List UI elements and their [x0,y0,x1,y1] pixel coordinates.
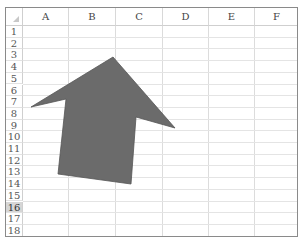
select-all-triangle-icon [13,16,19,22]
spreadsheet-grid[interactable]: ABCDEF 123456789101112131415161718 [5,7,298,237]
row-gridline [23,189,297,190]
column-header-a[interactable]: A [23,8,69,26]
row-header-8[interactable]: 8 [6,108,23,120]
row-gridline [23,177,297,178]
row-gridline [23,72,297,73]
row-header-4[interactable]: 4 [6,61,23,73]
row-gridline [23,48,297,49]
row-header-2[interactable]: 2 [6,38,23,50]
row-header-18[interactable]: 18 [6,225,23,237]
row-header-12[interactable]: 12 [6,155,23,167]
row-header-10[interactable]: 10 [6,131,23,143]
row-header-6[interactable]: 6 [6,85,23,97]
row-gridline [23,37,297,38]
row-header-15[interactable]: 15 [6,190,23,202]
row-header-7[interactable]: 7 [6,96,23,108]
row-header-17[interactable]: 17 [6,213,23,225]
row-gridline [23,212,297,213]
row-header-3[interactable]: 3 [6,49,23,61]
select-all-corner[interactable] [6,8,23,26]
column-header-c[interactable]: C [116,8,163,26]
column-header-b[interactable]: B [69,8,116,26]
row-header-1[interactable]: 1 [6,26,23,38]
row-gridline [23,224,297,225]
row-gridline [23,107,297,108]
row-header-14[interactable]: 14 [6,178,23,190]
row-header-16[interactable]: 16 [6,202,23,214]
row-gridline [23,236,297,237]
row-gridline [23,60,297,61]
row-header-11[interactable]: 11 [6,143,23,155]
row-header-13[interactable]: 13 [6,166,23,178]
row-header-5[interactable]: 5 [6,73,23,85]
row-gridline [23,201,297,202]
column-header-d[interactable]: D [163,8,209,26]
row-header-9[interactable]: 9 [6,120,23,132]
column-header-f[interactable]: F [255,8,298,26]
column-header-e[interactable]: E [209,8,255,26]
row-gridline [23,84,297,85]
